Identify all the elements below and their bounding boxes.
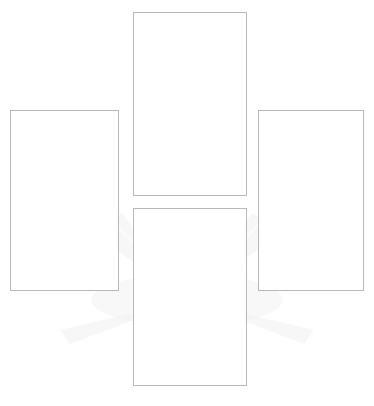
- placeholder-frame-left-content: [11, 111, 118, 290]
- placeholder-frame-right[interactable]: [258, 110, 364, 291]
- placeholder-frame-top[interactable]: [133, 12, 247, 196]
- placeholder-frame-top-content: [134, 13, 246, 195]
- placeholder-frame-right-content: [259, 111, 363, 290]
- placeholder-frame-bottom[interactable]: [133, 208, 247, 386]
- page-canvas: [0, 0, 374, 406]
- placeholder-frame-left[interactable]: [10, 110, 119, 291]
- placeholder-frame-bottom-content: [134, 209, 246, 385]
